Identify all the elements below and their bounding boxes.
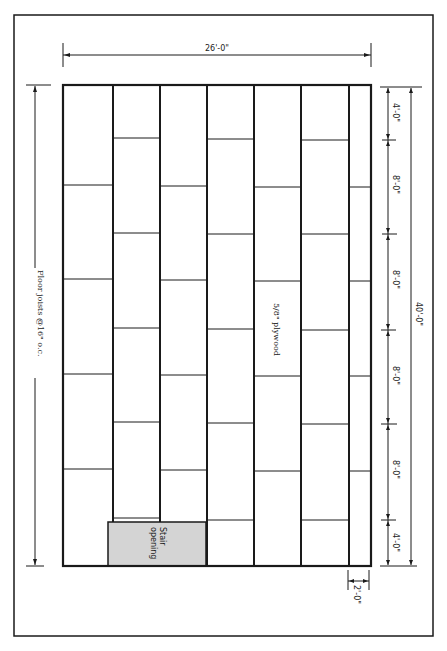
width-dimension: 26'-0" [63, 43, 371, 67]
segment-label-4: 8'-0" [391, 366, 400, 385]
plywood-label: 5/8" plywood [272, 303, 281, 356]
length-label: 40'-0" [414, 302, 423, 326]
floor-plan-diagram: 26'-0" Floor joists @16" o.c. Stair open… [0, 0, 447, 651]
segment-dimensions [380, 87, 422, 566]
panel-joint-lines [63, 138, 371, 520]
segment-label-3: 8'-0" [391, 270, 400, 289]
segment-label-6: 4'-0" [391, 533, 400, 552]
strip-arrow-right-icon [363, 579, 368, 583]
edge-strip-label: 2'-0" [352, 585, 361, 604]
joist-label: Floor joists @16" o.c. [36, 270, 45, 357]
segment-label-5: 8'-0" [391, 460, 400, 479]
panel-column-lines [113, 85, 349, 566]
dimension-arrowheads [386, 88, 413, 565]
stair-label-line1: Stair [158, 527, 167, 546]
segment-label-2: 8'-0" [391, 175, 400, 194]
strip-arrow-left-icon [349, 579, 354, 583]
stair-label-line2: opening [149, 527, 158, 559]
floor-outline [63, 85, 371, 566]
segment-label-1: 4'-0" [391, 103, 400, 122]
width-label: 26'-0" [205, 44, 229, 53]
joist-dimension: Floor joists @16" o.c. [26, 85, 51, 566]
